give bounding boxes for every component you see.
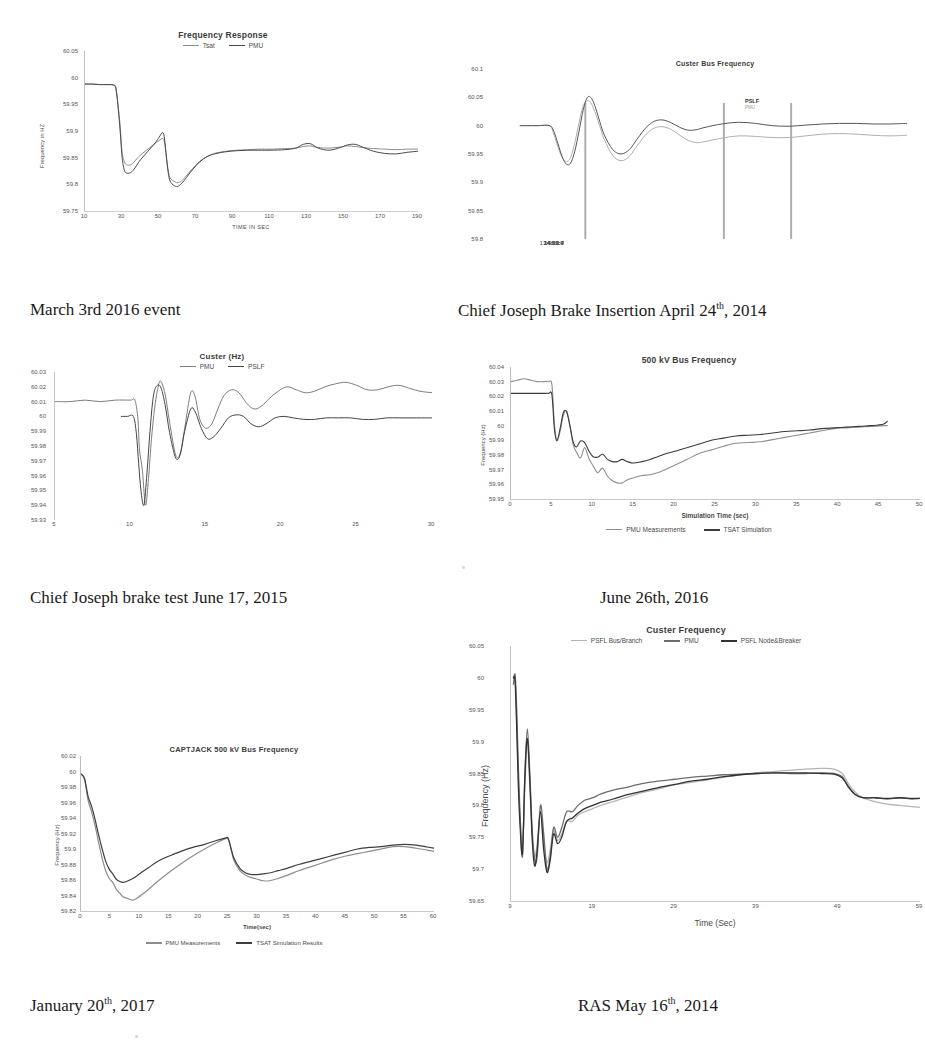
x-tick-label: 190: [412, 213, 422, 219]
x-axis-ticks: 05101520253035404550: [510, 500, 920, 512]
legend-swatch-icon: [228, 366, 244, 367]
x-tick-label: 30: [752, 501, 759, 507]
x-tick-label: 170: [375, 213, 385, 219]
y-tick-label: 60.02: [31, 384, 46, 390]
chart-svg: [81, 756, 434, 911]
legend-swatch-icon: [704, 529, 720, 531]
y-tick-label: 60.05: [469, 643, 484, 649]
y-tick-label: 60: [477, 675, 484, 681]
y-tick-label: 59.98: [489, 452, 504, 458]
x-tick-label: 19: [588, 903, 595, 909]
chart-title: 500 kV Bus Frequency: [458, 355, 920, 365]
chart-svg: [85, 51, 418, 211]
y-tick-label: 59.98: [31, 443, 46, 449]
x-tick-label: 20: [670, 501, 677, 507]
x-tick-label: 90: [229, 213, 236, 219]
caption-tail: , 2017: [112, 996, 155, 1015]
legend-swatch-icon: [229, 45, 245, 46]
y-tick-label: 59.97: [489, 467, 504, 473]
y-tick-label: 59.99: [31, 428, 46, 434]
x-tick-label: 29: [670, 903, 677, 909]
legend-swatch-icon: [236, 942, 252, 944]
x-tick-label: 0: [78, 913, 81, 919]
caption-tail: , 2014: [676, 996, 719, 1015]
caption-text: March 3rd 2016 event: [30, 300, 181, 319]
legend-label: TSAT Simulation Results: [256, 940, 322, 946]
figure-caption-chief-joseph-2014: Chief Joseph Brake Insertion April 24th,…: [458, 300, 767, 321]
caption-text: RAS May 16: [578, 996, 668, 1015]
y-tick-label: 59.95: [63, 101, 78, 107]
plot-canvas: [84, 51, 418, 212]
y-axis-ticks: 60.0360.0260.016059.9959.9859.9759.9659.…: [14, 372, 48, 520]
x-axis-label: Simulation Time (sec): [510, 512, 920, 519]
chart-legend: PMU PSLF: [12, 363, 432, 370]
x-tick-label: 25: [224, 913, 231, 919]
legend-item-pmu: PMU: [180, 363, 214, 370]
y-tick-label: 59.9: [66, 128, 78, 134]
y-tick-label: 59.7: [472, 866, 484, 872]
x-tick-label: 30: [118, 213, 125, 219]
y-tick-label: 59.75: [469, 834, 484, 840]
series-line-1: [520, 96, 906, 165]
y-tick-label: 59.94: [31, 502, 46, 508]
x-tick-label: 49: [834, 903, 841, 909]
y-tick-label: 60.02: [61, 753, 76, 759]
y-tick-label: 60.02: [489, 393, 504, 399]
chart-legend: PMU Measurements TSAT Simulation: [458, 526, 920, 533]
x-tick-label: 9: [508, 903, 511, 909]
x-tick-label: 5: [108, 913, 111, 919]
x-tick-label: 35: [283, 913, 290, 919]
y-axis-ticks: 60.160.056059.9559.959.8559.8: [451, 69, 485, 239]
legend-swatch-icon: [146, 942, 162, 944]
plot-canvas: [510, 646, 920, 902]
y-tick-label: 60.03: [489, 379, 504, 385]
x-axis-label: TIME IN SEC: [84, 224, 418, 230]
plot-area: Frequency in HZ 60.056059.9559.959.8559.…: [28, 51, 418, 241]
plot-canvas: [510, 367, 920, 500]
x-tick-label: 30: [428, 521, 435, 527]
y-tick-label: 59.9: [472, 739, 484, 745]
series-line-0: [81, 774, 434, 900]
x-tick-label: 0: [508, 501, 511, 507]
y-tick-label: 59.95: [468, 151, 483, 157]
chart-svg: [511, 367, 920, 499]
series-line-0: [520, 101, 906, 162]
y-tick-label: 59.98: [61, 784, 76, 790]
legend-label: PSFL Bus/Branch: [591, 637, 642, 644]
x-tick-label: 25: [711, 501, 718, 507]
legend-swatch-icon: [180, 366, 196, 367]
x-tick-label: 130: [301, 213, 311, 219]
legend-label: PSFL Node&Breaker: [741, 637, 801, 644]
y-tick-label: 59.8: [66, 181, 78, 187]
caption-text: January 20: [30, 996, 104, 1015]
x-tick-label: 40: [312, 913, 319, 919]
x-axis-ticks: 051015202530354045505560: [80, 912, 434, 924]
y-tick-label: 60.05: [468, 94, 483, 100]
y-tick-label: 59.99: [489, 437, 504, 443]
x-tick-label: 5: [549, 501, 552, 507]
y-tick-label: 59.8: [471, 236, 483, 242]
x-tick-label: 14:19:7: [544, 240, 564, 246]
figure-captjack-bus-frequency: CAPTJACK 500 kV Bus Frequency Frequency …: [34, 745, 434, 975]
x-tick-label: 60: [430, 913, 437, 919]
y-axis-ticks: 60.026059.9859.9659.9459.9259.959.8859.8…: [44, 756, 78, 911]
y-tick-label: 60.01: [31, 399, 46, 405]
chart-title: CAPTJACK 500 kV Bus Frequency: [34, 745, 434, 754]
x-axis-label: Time (Sec): [510, 918, 920, 928]
x-tick-label: 150: [338, 213, 348, 219]
legend-label: PSLF: [248, 363, 264, 370]
y-tick-label: 59.84: [61, 893, 76, 899]
plot-canvas: [80, 756, 434, 912]
figure-caption-june-2016: June 26th, 2016: [600, 588, 708, 608]
chart-title: Custer (Hz): [12, 352, 432, 361]
plot-area: Frequency (Hz) 60.0460.0360.0260.016059.…: [458, 367, 920, 522]
x-tick-label: 15: [201, 521, 208, 527]
figure-caption-march-2016: March 3rd 2016 event: [30, 300, 181, 320]
legend-swatch-icon: [664, 640, 680, 642]
x-tick-label: 50: [155, 213, 162, 219]
y-tick-label: 59.92: [61, 831, 76, 837]
caption-sup: th: [668, 995, 676, 1006]
y-tick-label: 59.96: [61, 800, 76, 806]
legend-label: PMU Measurements: [166, 940, 221, 946]
y-tick-label: 59.82: [61, 908, 76, 914]
